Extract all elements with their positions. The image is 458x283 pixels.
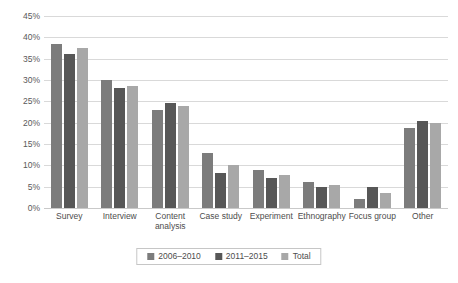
bar (279, 175, 290, 208)
bar-chart: 0%5%10%15%20%25%30%35%40%45% SurveyInter… (0, 0, 458, 283)
bar-group (347, 16, 398, 208)
bar (165, 103, 176, 208)
bar-group (145, 16, 196, 208)
chart-legend: 2006–20102011–2015Total (136, 248, 321, 265)
x-category-label: Focus group (347, 211, 398, 245)
bar (404, 128, 415, 208)
gridline (44, 208, 448, 209)
y-tick-label: 5% (0, 183, 40, 192)
bar (127, 86, 138, 208)
x-category-label: Interview (95, 211, 146, 245)
legend-swatch-icon (147, 253, 154, 260)
legend-item[interactable]: 2006–2010 (147, 252, 201, 261)
bar-group (95, 16, 146, 208)
y-tick-label: 0% (0, 204, 40, 213)
bar (266, 178, 277, 208)
bar (64, 54, 75, 208)
bar (253, 170, 264, 208)
x-category-label: Case study (196, 211, 247, 245)
bar (417, 121, 428, 208)
bar-group (398, 16, 449, 208)
bar (178, 106, 189, 208)
y-axis: 0%5%10%15%20%25%30%35%40%45% (0, 16, 40, 208)
bar (354, 199, 365, 208)
legend-item[interactable]: 2011–2015 (215, 252, 268, 261)
legend-label: 2006–2010 (158, 252, 201, 261)
bar (228, 165, 239, 208)
legend-label: Total (293, 252, 311, 261)
bar-group (246, 16, 297, 208)
bar (303, 182, 314, 208)
bar (114, 88, 125, 208)
bar (215, 173, 226, 208)
y-tick-label: 35% (0, 55, 40, 64)
bar (380, 193, 391, 208)
x-category-label: Other (398, 211, 449, 245)
legend-swatch-icon (282, 253, 289, 260)
bar (329, 185, 340, 208)
x-category-label: Experiment (246, 211, 297, 245)
bar (101, 80, 112, 208)
y-tick-label: 30% (0, 76, 40, 85)
bars-layer (44, 16, 448, 208)
bar-group (44, 16, 95, 208)
bar (77, 48, 88, 208)
bar (316, 187, 327, 208)
legend-swatch-icon (215, 253, 222, 260)
x-axis: SurveyInterviewContent analysisCase stud… (44, 211, 448, 245)
legend-item[interactable]: Total (282, 252, 311, 261)
x-category-label: Content analysis (145, 211, 196, 245)
bar (367, 187, 378, 208)
legend-label: 2011–2015 (226, 252, 268, 261)
bar (202, 153, 213, 208)
bar (51, 44, 62, 208)
bar-group (196, 16, 247, 208)
y-tick-label: 15% (0, 140, 40, 149)
y-tick-label: 20% (0, 119, 40, 128)
y-tick-label: 25% (0, 97, 40, 106)
bar (430, 123, 441, 208)
y-tick-label: 10% (0, 161, 40, 170)
y-tick-label: 45% (0, 12, 40, 21)
x-category-label: Survey (44, 211, 95, 245)
y-tick-label: 40% (0, 33, 40, 42)
x-category-label: Ethnography (297, 211, 348, 245)
bar-group (297, 16, 348, 208)
bar (152, 110, 163, 208)
